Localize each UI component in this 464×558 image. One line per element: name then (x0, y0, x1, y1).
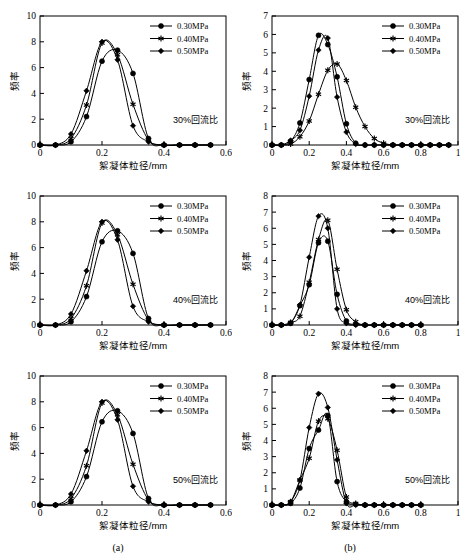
data-point-diamond (158, 48, 163, 53)
data-point-diamond (130, 484, 135, 489)
series-0.30MPa (38, 408, 214, 507)
x-tick-label: 0.8 (415, 508, 427, 518)
legend-entry-0.30MPa[interactable]: 0.30MPa (150, 21, 208, 31)
y-tick-label: 1 (263, 484, 268, 494)
x-tick-label: 1 (456, 148, 461, 158)
x-tick-label: 0 (38, 148, 43, 158)
data-point-circle (159, 384, 164, 389)
series-0.50MPa (269, 391, 423, 508)
data-point-circle (100, 59, 105, 64)
series-line (272, 416, 421, 506)
data-point-circle (391, 204, 396, 209)
series-0.40MPa (269, 217, 423, 328)
x-tick-label: 0.4 (158, 148, 170, 158)
legend-entry-0.40MPa[interactable]: 0.40MPa (382, 394, 440, 404)
legend-label: 0.40MPa (177, 394, 208, 404)
data-point-diamond (84, 88, 89, 93)
legend-entry-0.40MPa[interactable]: 0.40MPa (150, 34, 208, 44)
data-point-circle (84, 294, 89, 299)
data-point-diamond (130, 123, 135, 128)
x-tick-label: 1 (456, 328, 461, 338)
sub-caption: (a) (98, 542, 138, 553)
x-tick-label: 0.2 (303, 148, 315, 158)
panel-annotation: 40%回流比 (405, 294, 450, 305)
x-axis-label: 絮凝体粒径/mm (99, 520, 168, 531)
y-tick-label: 0 (31, 140, 36, 150)
x-tick-label: 0.6 (220, 148, 232, 158)
x-tick-label: 0.4 (340, 328, 352, 338)
legend-entry-0.30MPa[interactable]: 0.30MPa (382, 381, 440, 391)
data-point-circle (100, 239, 105, 244)
data-point-star (130, 461, 135, 467)
data-point-star (344, 307, 349, 313)
series-0.30MPa (38, 228, 214, 327)
x-tick-label: 0.2 (303, 508, 315, 518)
data-point-star (353, 104, 358, 110)
y-tick-label: 7 (263, 11, 268, 21)
x-tick-label: 0.6 (378, 328, 390, 338)
y-tick-label: 4 (263, 436, 268, 446)
y-tick-label: 10 (27, 11, 37, 21)
y-axis-label: 频率 (9, 251, 20, 271)
y-tick-label: 6 (31, 243, 36, 253)
legend-entry-0.40MPa[interactable]: 0.40MPa (382, 214, 440, 224)
y-tick-label: 10 (27, 191, 37, 201)
data-point-diamond (307, 425, 312, 430)
y-tick-label: 4 (31, 449, 36, 459)
chart-panel-b-40: 00.20.40.60.81012345678絮凝体粒径/mm频率40%回流比0… (232, 182, 464, 362)
data-point-diamond (158, 228, 163, 233)
x-tick-label: 0 (270, 328, 275, 338)
data-point-diamond (334, 94, 339, 99)
series-line (40, 230, 211, 326)
series-0.30MPa (270, 413, 424, 507)
data-point-star (130, 101, 135, 107)
data-point-star (335, 266, 340, 272)
x-tick-label: 0.6 (378, 508, 390, 518)
x-tick-label: 0.4 (340, 508, 352, 518)
y-tick-label: 8 (263, 371, 268, 381)
data-point-circle (131, 251, 136, 256)
legend-entry-0.50MPa[interactable]: 0.50MPa (150, 406, 208, 416)
chart-panel-a-50: 00.20.40.60246810絮凝体粒径/mm频率50%回流比0.30MPa… (0, 362, 232, 542)
data-point-diamond (325, 405, 330, 410)
panel-panel-b-40: 00.20.40.60.81012345678絮凝体粒径/mm频率40%回流比0… (232, 182, 464, 362)
data-point-star (344, 78, 349, 84)
panel-annotation: 30%回流比 (405, 114, 450, 125)
data-point-diamond (334, 306, 339, 311)
legend-entry-0.50MPa[interactable]: 0.50MPa (382, 406, 440, 416)
legend-entry-0.40MPa[interactable]: 0.40MPa (150, 394, 208, 404)
y-axis-label: 频率 (9, 431, 20, 451)
legend-label: 0.50MPa (409, 406, 440, 416)
y-tick-label: 8 (31, 217, 36, 227)
series-0.40MPa (269, 416, 423, 508)
legend-entry-0.50MPa[interactable]: 0.50MPa (382, 46, 440, 56)
data-point-diamond (316, 391, 321, 396)
y-tick-label: 7 (263, 208, 268, 218)
data-point-diamond (84, 268, 89, 273)
y-tick-label: 2 (31, 115, 36, 125)
legend-entry-0.40MPa[interactable]: 0.40MPa (382, 34, 440, 44)
x-axis-label: 絮凝体粒径/mm (331, 160, 400, 171)
y-tick-label: 5 (263, 48, 268, 58)
x-tick-label: 0.4 (158, 508, 170, 518)
legend-entry-0.30MPa[interactable]: 0.30MPa (150, 381, 208, 391)
legend-entry-0.50MPa[interactable]: 0.50MPa (150, 46, 208, 56)
data-point-circle (84, 474, 89, 479)
legend-label: 0.50MPa (409, 226, 440, 236)
data-point-diamond (390, 408, 395, 413)
legend-entry-0.50MPa[interactable]: 0.50MPa (382, 226, 440, 236)
legend-entry-0.30MPa[interactable]: 0.30MPa (150, 201, 208, 211)
legend-entry-0.30MPa[interactable]: 0.30MPa (382, 21, 440, 31)
legend-entry-0.50MPa[interactable]: 0.50MPa (150, 226, 208, 236)
panel-annotation: 30%回流比 (173, 114, 218, 125)
legend-label: 0.40MPa (177, 34, 208, 44)
x-tick-label: 0.2 (96, 148, 108, 158)
legend-entry-0.30MPa[interactable]: 0.30MPa (382, 201, 440, 211)
x-tick-label: 0 (270, 508, 275, 518)
chart-panel-a-30: 00.20.40.60246810絮凝体粒径/mm频率30%回流比0.30MPa… (0, 2, 232, 182)
legend-entry-0.40MPa[interactable]: 0.40MPa (150, 214, 208, 224)
x-tick-label: 0.8 (415, 328, 427, 338)
chart-panel-b-50: 00.20.40.60.81012345678絮凝体粒径/mm频率50%回流比0… (232, 362, 464, 542)
panel-annotation: 50%回流比 (173, 474, 218, 485)
legend-label: 0.30MPa (177, 381, 208, 391)
